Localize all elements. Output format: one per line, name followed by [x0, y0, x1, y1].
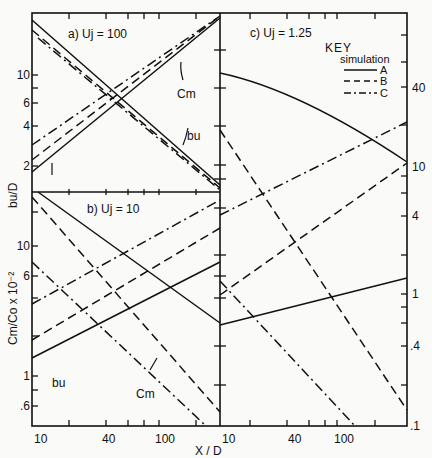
legend: KEY simulation A B C: [325, 41, 390, 99]
panel-c-title: c) Uj = 1.25: [250, 26, 312, 40]
annotation-bu-a: bu: [187, 129, 200, 143]
panel-b-series: [32, 192, 220, 426]
panel-a-title: a) Uj = 100: [68, 27, 127, 41]
annotation-bu-b: bu: [52, 376, 65, 390]
svg-text:.6: .6: [20, 399, 30, 413]
svg-text:40: 40: [412, 81, 426, 95]
svg-text:10: 10: [412, 160, 426, 174]
figure: a) Uj = 100 b) Uj = 10 c) Uj = 1.25 Cm b…: [0, 0, 432, 458]
svg-text:40: 40: [288, 432, 302, 446]
panel-c-y-tick-labels: 40 10 4 1 .4 .1: [410, 81, 426, 433]
svg-text:.4: .4: [410, 339, 420, 353]
svg-text:40: 40: [102, 432, 116, 446]
svg-text:1: 1: [23, 369, 30, 383]
svg-text:10: 10: [17, 239, 31, 253]
svg-text:6: 6: [23, 269, 30, 283]
annotation-cm-b: Cm: [136, 387, 155, 401]
svg-text:2: 2: [23, 159, 30, 173]
y-axis-label: Cm/Co x 10⁻²: [6, 272, 20, 345]
svg-text:10: 10: [17, 68, 31, 82]
panel-c-series: [220, 73, 407, 426]
annotation-cm-a: Cm: [177, 87, 196, 101]
svg-text:.1: .1: [410, 419, 420, 433]
y-axis-label-top: bu/D: [6, 182, 20, 208]
svg-text:10: 10: [222, 432, 236, 446]
panel-b-title: b) Uj = 10: [87, 202, 140, 216]
svg-text:4: 4: [412, 209, 419, 223]
x-axis-label: X / D: [195, 444, 222, 458]
svg-text:C: C: [380, 87, 388, 99]
svg-text:100: 100: [155, 432, 175, 446]
svg-text:1: 1: [412, 287, 419, 301]
panel-a-y-tick-labels: 10 6 4 2: [17, 68, 31, 173]
svg-text:100: 100: [334, 432, 354, 446]
panel-a-series: [32, 16, 220, 190]
svg-text:4: 4: [23, 119, 30, 133]
svg-text:B: B: [380, 75, 387, 87]
svg-text:6: 6: [23, 96, 30, 110]
svg-text:10: 10: [34, 432, 48, 446]
